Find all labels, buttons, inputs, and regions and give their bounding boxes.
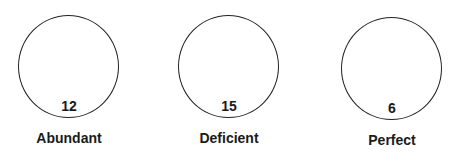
deficient-label: Deficient [159, 130, 299, 146]
perfect-group: 6 Perfect [322, 0, 462, 154]
abundant-group: 12 Abundant [0, 0, 139, 154]
abundant-number: 12 [0, 98, 139, 114]
deficient-group: 15 Deficient [159, 0, 299, 154]
perfect-number: 6 [322, 100, 462, 116]
deficient-number: 15 [159, 98, 299, 114]
abundant-label: Abundant [0, 130, 139, 146]
perfect-label: Perfect [322, 132, 462, 148]
